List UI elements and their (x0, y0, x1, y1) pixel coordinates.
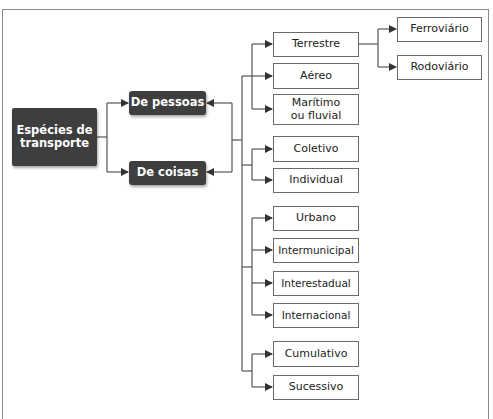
node-individual: Individual (273, 168, 359, 193)
node-label: Terrestre (292, 38, 340, 51)
node-coletivo: Coletivo (273, 136, 359, 162)
root-label: Espécies de transporte (12, 124, 97, 150)
node-de-pessoas: De pessoas (129, 91, 206, 115)
node-internacional: Internacional (273, 303, 359, 328)
node-de-coisas: De coisas (129, 161, 206, 185)
node-ferroviario: Ferroviário (397, 17, 482, 42)
node-cumulativo: Cumulativo (273, 341, 359, 367)
node-interestadual: Interestadual (273, 271, 359, 296)
node-label: De coisas (137, 166, 198, 179)
node-rodoviario: Rodoviário (397, 55, 482, 80)
node-label: Rodoviário (410, 61, 468, 74)
node-label: Coletivo (294, 143, 339, 156)
node-label: Internacional (282, 309, 351, 321)
node-urbano: Urbano (273, 206, 359, 231)
node-intermunicipal: Intermunicipal (273, 238, 359, 263)
node-label: Ferroviário (410, 23, 468, 36)
node-label: Marítimo ou fluvial (288, 97, 344, 122)
node-label: Aéreo (300, 70, 332, 83)
node-label: Sucessivo (289, 381, 344, 394)
node-maritimo-fluvial: Marítimo ou fluvial (273, 94, 359, 125)
node-terrestre: Terrestre (273, 32, 359, 57)
node-label: Intermunicipal (278, 244, 354, 256)
node-label: Individual (289, 174, 343, 187)
node-sucessivo: Sucessivo (273, 375, 359, 400)
node-label: Interestadual (281, 277, 351, 289)
node-aereo: Aéreo (273, 63, 359, 89)
node-label: Cumulativo (285, 348, 348, 361)
node-label: Urbano (296, 212, 336, 225)
root-node: Espécies de transporte (12, 108, 97, 166)
node-label: De pessoas (131, 96, 205, 109)
